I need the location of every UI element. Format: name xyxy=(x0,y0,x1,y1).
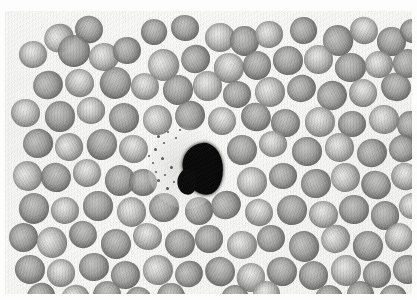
cytoplasmic-granule xyxy=(161,157,164,160)
red-blood-cell xyxy=(44,100,76,133)
red-blood-cell xyxy=(283,71,320,107)
red-blood-cell xyxy=(338,194,369,225)
red-blood-cell xyxy=(267,160,300,191)
red-blood-cell xyxy=(78,252,109,281)
cytoplasmic-granule xyxy=(175,137,177,139)
red-blood-cell xyxy=(46,258,76,288)
red-blood-cell xyxy=(195,225,223,253)
red-blood-cell xyxy=(163,227,196,260)
red-blood-cell xyxy=(50,196,81,225)
red-blood-cell xyxy=(16,190,52,227)
cytoplasmic-granule xyxy=(179,129,181,131)
red-blood-cell xyxy=(70,156,105,190)
red-blood-cell xyxy=(18,40,49,70)
cytoplasmic-granule xyxy=(163,142,165,144)
red-blood-cell xyxy=(387,159,412,194)
cytoplasmic-granule xyxy=(155,171,157,173)
red-blood-cell xyxy=(28,66,67,104)
red-blood-cell xyxy=(169,13,201,43)
micrograph-field xyxy=(5,11,412,294)
red-blood-cell xyxy=(193,71,222,101)
red-blood-cell xyxy=(292,136,323,166)
red-blood-cell xyxy=(19,125,57,162)
cytoplasmic-granule xyxy=(170,166,173,169)
red-blood-cell xyxy=(254,222,288,255)
cytoplasmic-granule xyxy=(157,179,160,182)
red-blood-cell xyxy=(354,135,391,170)
red-blood-cell xyxy=(224,132,260,168)
red-blood-cell xyxy=(58,35,91,68)
red-blood-cell xyxy=(286,13,320,47)
red-blood-cell xyxy=(297,165,335,202)
cytoplasmic-granule xyxy=(157,135,160,138)
red-blood-cell xyxy=(138,16,170,48)
red-blood-cell xyxy=(385,131,412,167)
red-blood-cell xyxy=(236,166,269,199)
cytoplasmic-granule xyxy=(148,155,150,157)
image-frame xyxy=(0,0,417,300)
blood-smear-figure: Peripheral blood smear photomicrograph B… xyxy=(0,0,417,300)
cytoplasmic-granule xyxy=(154,148,157,151)
red-blood-cell xyxy=(271,44,306,78)
red-blood-cell xyxy=(37,158,76,196)
red-blood-cell xyxy=(225,229,258,261)
cytoplasmic-granule xyxy=(173,181,175,183)
red-blood-cell xyxy=(13,252,48,286)
red-blood-cell xyxy=(326,158,365,197)
red-blood-cell xyxy=(303,44,333,74)
red-blood-cell xyxy=(368,104,401,136)
cytoplasmic-granule xyxy=(166,187,169,190)
red-blood-cell xyxy=(76,96,105,124)
cytoplasmic-granule xyxy=(167,131,169,133)
red-blood-cell xyxy=(107,101,142,135)
cytoplasmic-granule xyxy=(152,162,154,164)
red-blood-cell xyxy=(115,131,151,167)
red-blood-cell xyxy=(83,191,114,221)
red-blood-cell xyxy=(273,191,311,229)
red-blood-cell xyxy=(390,252,412,287)
cytoplasmic-granule xyxy=(164,174,166,176)
red-blood-cell xyxy=(9,96,43,129)
